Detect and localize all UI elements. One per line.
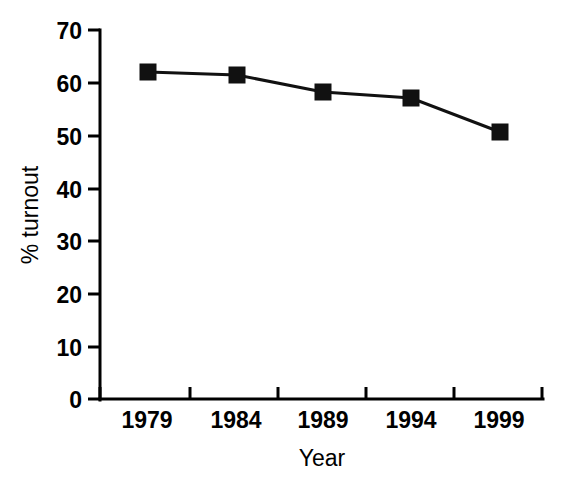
data-point-1999 bbox=[492, 124, 508, 140]
page-scan-artifact bbox=[10, 475, 530, 481]
y-tick-label-30: 30 bbox=[56, 229, 82, 255]
y-tick-label-10: 10 bbox=[56, 335, 82, 361]
y-tick-label-0: 0 bbox=[69, 387, 82, 413]
y-axis-tick-labels: 70 60 50 40 30 20 10 0 bbox=[56, 18, 82, 413]
x-tick-label-1984: 1984 bbox=[210, 407, 261, 433]
x-axis-title: Year bbox=[299, 445, 346, 471]
series-turnout-markers bbox=[140, 64, 508, 140]
data-point-1984 bbox=[229, 67, 245, 83]
y-tick-label-20: 20 bbox=[56, 282, 82, 308]
series-turnout-line bbox=[148, 72, 500, 132]
x-axis-ticks bbox=[100, 387, 542, 399]
x-axis-tick-labels: 1979 1984 1989 1994 1999 bbox=[121, 407, 524, 433]
y-tick-label-60: 60 bbox=[56, 71, 82, 97]
y-tick-label-50: 50 bbox=[56, 124, 82, 150]
x-tick-label-1994: 1994 bbox=[385, 407, 436, 433]
data-point-1979 bbox=[140, 64, 156, 80]
y-tick-label-40: 40 bbox=[56, 177, 82, 203]
data-point-1989 bbox=[315, 84, 331, 100]
data-point-1994 bbox=[403, 90, 419, 106]
line-chart-canvas: 70 60 50 40 30 20 10 0 1979 1984 1989 19… bbox=[0, 0, 571, 484]
y-axis-title: % turnout bbox=[17, 165, 43, 264]
y-tick-label-70: 70 bbox=[56, 18, 82, 44]
x-tick-label-1979: 1979 bbox=[121, 407, 172, 433]
x-tick-label-1989: 1989 bbox=[297, 407, 348, 433]
x-tick-label-1999: 1999 bbox=[473, 407, 524, 433]
y-axis-ticks bbox=[88, 30, 100, 399]
chart-figure: 70 60 50 40 30 20 10 0 1979 1984 1989 19… bbox=[0, 0, 571, 484]
